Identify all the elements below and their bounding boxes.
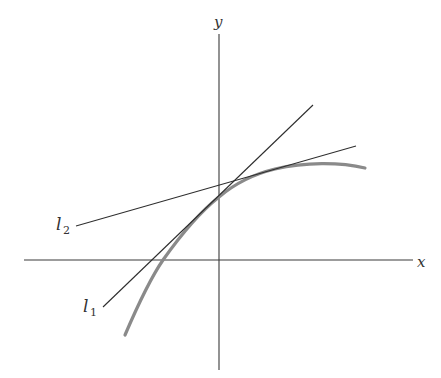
label-l1-sub: 1 — [90, 306, 97, 319]
diagram-canvas: y x l 2 l 1 — [0, 0, 441, 378]
label-l1: l 1 — [83, 296, 97, 319]
y-axis-label: y — [213, 13, 223, 31]
label-l2: l 2 — [56, 214, 70, 237]
label-l2-base: l — [56, 214, 61, 234]
line-l2 — [76, 146, 356, 226]
x-axis-label: x — [417, 253, 426, 271]
curve — [125, 164, 365, 335]
label-l2-sub: 2 — [63, 224, 70, 237]
label-l1-base: l — [83, 296, 88, 316]
line-l1 — [103, 105, 313, 307]
